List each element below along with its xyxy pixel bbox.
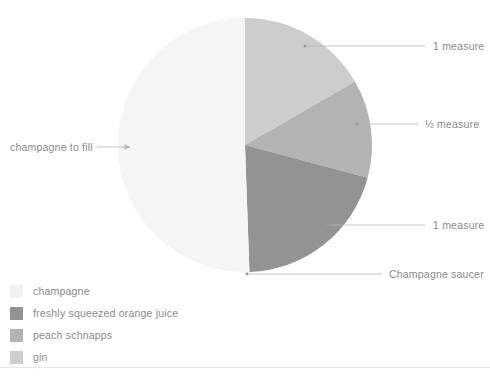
- leader-dot-peach-schnapps: [356, 123, 359, 126]
- legend-label-peach-schnapps: peach schnapps: [33, 330, 112, 341]
- legend-item-peach-schnapps[interactable]: peach schnapps: [10, 325, 270, 345]
- pie-slice-champagne[interactable]: [118, 18, 250, 272]
- legend-item-gin[interactable]: gin: [10, 347, 270, 367]
- leader-dot-orange-juice: [327, 224, 330, 227]
- leader-dot-glassware: [246, 273, 249, 276]
- legend-swatch-champagne: [10, 285, 23, 298]
- callout-glassware: Champagne saucer: [389, 269, 484, 280]
- callout-gin-measure: 1 measure: [433, 41, 484, 52]
- callout-peach-schnapps-measure: ½ measure: [425, 119, 479, 130]
- legend-swatch-orange-juice: [10, 307, 23, 320]
- legend-item-orange-juice[interactable]: freshly squeezed orange juice: [10, 303, 270, 323]
- legend: champagne freshly squeezed orange juice …: [10, 281, 270, 369]
- legend-item-champagne[interactable]: champagne: [10, 281, 270, 301]
- legend-label-gin: gin: [33, 352, 48, 363]
- leader-dot-gin: [304, 45, 307, 48]
- legend-swatch-gin: [10, 351, 23, 364]
- pie-chart-figure: 1 measure ½ measure 1 measure Champagne …: [0, 0, 490, 378]
- footer-divider: [0, 367, 490, 368]
- callout-champagne-fill: champagne to fill: [10, 142, 93, 153]
- legend-label-champagne: champagne: [33, 286, 90, 297]
- pie-slices: [118, 18, 372, 272]
- callout-orange-juice-measure: 1 measure: [433, 220, 484, 231]
- legend-label-orange-juice: freshly squeezed orange juice: [33, 308, 178, 319]
- legend-swatch-peach-schnapps: [10, 329, 23, 342]
